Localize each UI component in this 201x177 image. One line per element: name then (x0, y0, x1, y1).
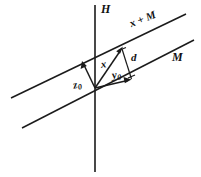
subspace-line-M (22, 40, 194, 128)
diagram-canvas (0, 0, 201, 177)
vector-z0-shaft (84, 66, 95, 89)
label-hyperplane-H: H (101, 3, 110, 15)
geometric-figure: H x + M M x d y0 z0 (0, 0, 201, 177)
label-distance-d: d (131, 52, 137, 63)
vector-y0-arrowhead (124, 77, 132, 83)
coset-line-x-plus-M (11, 14, 186, 98)
label-subspace-M: M (172, 51, 183, 63)
label-vector-y0: y0 (111, 68, 122, 80)
label-vector-x: x (100, 58, 107, 70)
